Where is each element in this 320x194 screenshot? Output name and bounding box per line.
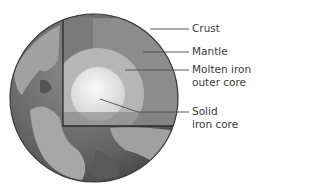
label-outer-core-line2: outer core [192,76,251,89]
cutaway [52,14,183,140]
label-crust-text: Crust [192,22,220,34]
label-inner-core-line1: Solid [192,105,238,118]
label-inner-core: Solid iron core [192,105,238,131]
label-outer-core: Molten iron outer core [192,63,251,89]
label-outer-core-line1: Molten iron [192,63,251,76]
label-mantle: Mantle [192,45,228,58]
label-mantle-text: Mantle [192,45,228,57]
label-inner-core-line2: iron core [192,118,238,131]
label-crust: Crust [192,22,220,35]
